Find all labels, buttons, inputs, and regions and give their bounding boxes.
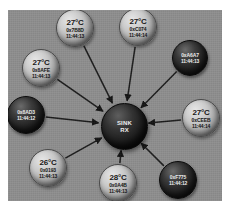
node-timestamp: 11:44:13 — [181, 58, 199, 64]
edge-0xceeb-to-sink — [148, 120, 181, 123]
node-timestamp: 11:44:13 — [109, 188, 127, 194]
node-timestamp: 11:44:12 — [169, 180, 187, 186]
node-temperature: 27°C — [32, 58, 49, 67]
node-timestamp: 11:44:14 — [129, 32, 147, 38]
sensor-node-0xceeb[interactable]: 27°C0xCEEB11:44:14 — [182, 99, 220, 137]
edge-0xf775-to-sink — [141, 143, 164, 166]
node-timestamp: 11:44:13 — [66, 33, 84, 39]
edge-0xc074-to-sink — [127, 47, 135, 101]
edge-0xa6a7-to-sink — [141, 72, 177, 108]
sensor-node-0x8ad3[interactable]: 0x8AD311:44:12 — [8, 96, 45, 134]
node-temperature: 26°C — [39, 158, 56, 167]
sensor-node-0x0a4b[interactable]: 28°C0x0A4B11:44:13 — [99, 164, 137, 201]
node-timestamp: 11:44:13 — [39, 173, 57, 179]
node-timestamp: 11:44:13 — [32, 73, 50, 79]
edge-0x0193-to-sink — [65, 138, 101, 158]
sensor-node-0x7b8d[interactable]: 27°C0x7B8D11:44:13 — [56, 10, 94, 47]
sensor-node-0x8afe[interactable]: 27°C0x8AFE11:44:13 — [22, 49, 60, 87]
edge-0x8ad3-to-sink — [46, 117, 99, 123]
node-timestamp: 11:44:12 — [17, 115, 35, 121]
sensor-node-0xa6a7[interactable]: 0xA6A711:44:13 — [172, 40, 208, 76]
sensor-node-0xf775[interactable]: 0xF77511:44:12 — [159, 161, 197, 199]
sink-hub-node[interactable]: SINK RX — [101, 103, 148, 150]
edge-0x7b8d-to-sink — [84, 46, 113, 103]
diagram-stage: SINK RX 27°C0x7B8D11:44:1327°C0xC07411:4… — [0, 0, 231, 214]
sensor-node-0x0193[interactable]: 26°C0x019311:44:13 — [29, 149, 67, 187]
hub-label-line1: SINK — [117, 120, 132, 127]
hub-label-line2: RX — [120, 127, 129, 134]
edge-0x8afe-to-sink — [57, 79, 103, 111]
node-temperature: 28°C — [109, 173, 126, 182]
node-timestamp: 11:44:14 — [192, 123, 210, 129]
node-temperature: 27°C — [66, 18, 83, 27]
diagram-canvas: SINK RX 27°C0x7B8D11:44:1327°C0xC07411:4… — [8, 10, 222, 201]
edge-0x0a4b-to-sink — [120, 150, 121, 163]
node-temperature: 27°C — [192, 108, 209, 117]
node-temperature: 27°C — [129, 17, 146, 26]
